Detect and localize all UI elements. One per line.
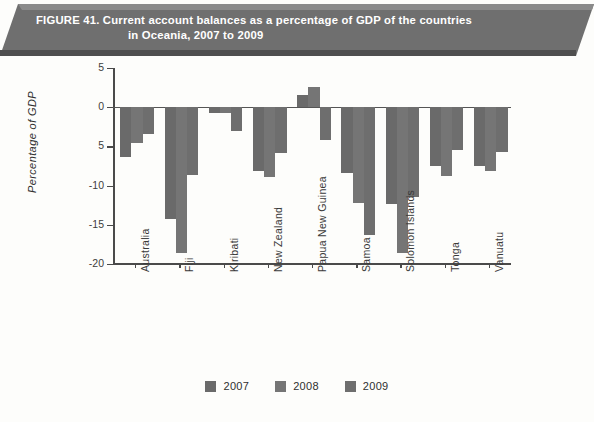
bar-2008-papua-new-guinea — [308, 87, 319, 107]
x-axis-tick-mark — [224, 263, 225, 268]
bar-2007-kiribati — [209, 107, 220, 112]
bar-2008-tonga — [441, 107, 452, 176]
legend-item-2007[interactable]: 2007 — [205, 380, 249, 392]
y-axis-tick-label: 0 — [64, 100, 104, 112]
page-title: FIGURE 41. Current account balances as a… — [28, 13, 558, 43]
legend-swatch-2009 — [345, 381, 356, 392]
bar-2008-vanuatu — [485, 107, 496, 171]
bar-2007-vanuatu — [474, 107, 485, 166]
y-axis-tick-label: -10 — [64, 179, 104, 191]
plot-area — [113, 68, 511, 264]
bar-2009-vanuatu — [496, 107, 507, 152]
x-axis-tick-mark — [268, 263, 269, 268]
x-axis-tick-mark — [445, 263, 446, 268]
bar-2008-kiribati — [220, 107, 231, 113]
bar-2007-solomon-islands — [386, 107, 397, 203]
x-axis-label-australia: Australia — [139, 228, 151, 272]
x-axis-label-samoa: Samoa — [360, 237, 372, 272]
bar-2009-kiribati — [231, 107, 242, 131]
bar-2008-samoa — [353, 107, 364, 203]
bar-group — [165, 68, 199, 264]
bar-2009-papua-new-guinea — [320, 107, 331, 140]
figure-title-line-2: in Oceania, 2007 to 2009 — [28, 28, 558, 43]
figure-title-banner: FIGURE 41. Current account balances as a… — [0, 4, 594, 56]
y-axis-tick-label: 5 — [64, 139, 104, 151]
y-axis-tick-label: -20 — [64, 257, 104, 269]
bar-2008-new-zealand — [264, 107, 275, 177]
bar-2009-australia — [143, 107, 154, 134]
legend-label-2007: 2007 — [223, 380, 249, 392]
y-axis-tick-label: 5 — [64, 61, 104, 73]
bar-2008-fiji — [176, 107, 187, 253]
x-axis-tick-mark — [356, 263, 357, 268]
x-axis-label-tonga: Tonga — [449, 242, 461, 272]
x-axis-tick-mark — [489, 263, 490, 268]
bar-2007-samoa — [341, 107, 352, 173]
y-axis-tick-label: -15 — [64, 218, 104, 230]
x-axis-tick-mark — [312, 263, 313, 268]
legend-label-2009: 2009 — [363, 380, 389, 392]
bar-2009-new-zealand — [275, 107, 286, 153]
legend-item-2009[interactable]: 2009 — [345, 380, 389, 392]
x-axis-label-new-zealand: New Zealand — [272, 207, 284, 272]
bar-2007-australia — [120, 107, 131, 156]
y-axis-tick-labels: 505-10-15-20 — [58, 58, 104, 268]
bar-group — [341, 68, 375, 264]
x-axis-tick-mark — [179, 263, 180, 268]
chart-legend: 200720082009 — [0, 380, 594, 392]
figure-title-line-1: FIGURE 41. Current account balances as a… — [28, 13, 558, 28]
x-axis-tick-mark — [400, 263, 401, 268]
x-axis-tick-mark — [135, 263, 136, 268]
bar-2007-new-zealand — [253, 107, 264, 171]
bar-2009-solomon-islands — [408, 107, 419, 197]
x-axis-label-papua-new-guinea: Papua New Guinea — [316, 176, 328, 272]
chart-container: Percentage of GDP 505-10-15-20 Australia… — [0, 58, 594, 422]
bar-group — [430, 68, 464, 264]
legend-swatch-2008 — [275, 381, 286, 392]
y-axis-title: Percentage of GDP — [26, 72, 38, 212]
legend-label-2008: 2008 — [293, 380, 319, 392]
legend-swatch-2007 — [205, 381, 216, 392]
legend-item-2008[interactable]: 2008 — [275, 380, 319, 392]
bar-2009-fiji — [187, 107, 198, 174]
x-axis-label-vanuatu: Vanuatu — [493, 232, 505, 272]
bar-2009-samoa — [364, 107, 375, 235]
bar-2008-australia — [131, 107, 142, 143]
bar-2007-fiji — [165, 107, 176, 219]
bar-group — [209, 68, 243, 264]
x-axis-label-kiribati: Kiribati — [228, 238, 240, 273]
x-axis-label-solomon-islands: Solomon Islands — [404, 190, 416, 272]
bar-2009-tonga — [452, 107, 463, 150]
x-axis-label-fiji: Fiji — [183, 257, 195, 272]
bar-2007-papua-new-guinea — [297, 95, 308, 107]
bar-2007-tonga — [430, 107, 441, 166]
